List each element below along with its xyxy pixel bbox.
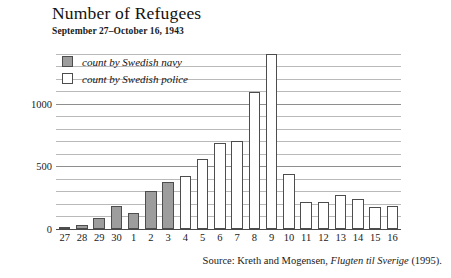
bar xyxy=(180,176,191,229)
y-axis-tick-labels: 05001000 xyxy=(8,41,52,229)
source-work-title: Flugten til Sverige xyxy=(331,255,409,266)
title-block: Number of Refugees September 27–October … xyxy=(52,4,412,36)
legend-swatch-navy-icon xyxy=(62,56,73,67)
bar xyxy=(162,182,173,229)
x-axis-tick-label: 10 xyxy=(280,232,297,243)
source-prefix: Source: Kreth and Mogensen, xyxy=(203,255,331,266)
bar xyxy=(300,202,311,229)
legend-label-police: count by Swedish police xyxy=(82,73,188,85)
x-axis-tick-labels: 2728293012345678910111213141516 xyxy=(56,232,401,248)
bar xyxy=(128,213,139,229)
bar xyxy=(197,159,208,229)
bar xyxy=(283,174,294,229)
x-axis-tick-label: 8 xyxy=(246,232,263,243)
x-axis-tick-label: 11 xyxy=(298,232,315,243)
x-axis-tick-label: 27 xyxy=(56,232,73,243)
chart-legend: count by Swedish navy count by Swedish p… xyxy=(62,53,272,87)
gridline xyxy=(56,216,401,217)
x-axis-tick-label: 16 xyxy=(384,232,401,243)
chart-title: Number of Refugees xyxy=(52,4,412,23)
gridline xyxy=(56,129,401,130)
bar xyxy=(369,207,380,229)
source-note: Source: Kreth and Mogensen, Flugten til … xyxy=(0,255,442,266)
x-axis-tick-label: 28 xyxy=(73,232,90,243)
x-axis-tick-label: 4 xyxy=(177,232,194,243)
x-axis-tick-label: 1 xyxy=(125,232,142,243)
legend-label-navy: count by Swedish navy xyxy=(82,56,182,68)
legend-item-navy: count by Swedish navy xyxy=(62,53,272,70)
bar xyxy=(318,202,329,229)
gridline xyxy=(56,116,401,117)
bar xyxy=(214,143,225,229)
x-axis-tick-label: 14 xyxy=(349,232,366,243)
x-axis-tick-label: 5 xyxy=(194,232,211,243)
x-axis-tick-label: 9 xyxy=(263,232,280,243)
gridline xyxy=(56,191,401,192)
y-axis-tick-label: 500 xyxy=(36,161,52,172)
x-axis-tick-label: 15 xyxy=(367,232,384,243)
bar xyxy=(145,191,156,229)
bar xyxy=(335,195,346,229)
x-axis-tick-label: 3 xyxy=(160,232,177,243)
gridline xyxy=(56,141,401,142)
bar xyxy=(231,141,242,229)
gridline xyxy=(56,166,401,167)
bar xyxy=(111,206,122,229)
bar xyxy=(249,92,260,229)
gridline xyxy=(56,91,401,92)
bar xyxy=(387,206,398,229)
x-axis-tick-label: 2 xyxy=(142,232,159,243)
gridline xyxy=(56,104,401,105)
source-suffix: (1995). xyxy=(409,255,442,266)
x-axis-tick-label: 12 xyxy=(315,232,332,243)
bar xyxy=(93,218,104,229)
bar xyxy=(352,199,363,229)
gridline xyxy=(56,204,401,205)
x-axis-tick-label: 6 xyxy=(211,232,228,243)
y-axis-tick-label: 0 xyxy=(47,224,52,235)
y-axis-tick-label: 1000 xyxy=(31,98,52,109)
x-axis-baseline xyxy=(56,229,401,230)
x-axis-tick-label: 29 xyxy=(91,232,108,243)
x-axis-tick-label: 7 xyxy=(229,232,246,243)
gridline xyxy=(56,179,401,180)
gridline xyxy=(56,154,401,155)
x-axis-tick-label: 13 xyxy=(332,232,349,243)
legend-item-police: count by Swedish police xyxy=(62,70,272,87)
refugees-bar-chart-figure: Number of Refugees September 27–October … xyxy=(0,0,451,278)
legend-swatch-police-icon xyxy=(62,73,73,84)
x-axis-tick-label: 30 xyxy=(108,232,125,243)
chart-subtitle: September 27–October 16, 1943 xyxy=(52,26,412,36)
